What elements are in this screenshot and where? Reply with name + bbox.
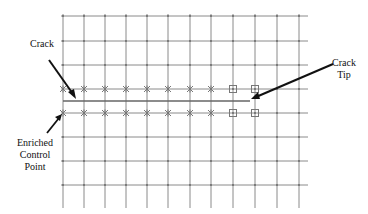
control-point: [62, 40, 64, 42]
control-point: [62, 184, 64, 186]
control-point: [276, 15, 278, 17]
control-point: [189, 136, 191, 138]
control-point: [83, 136, 85, 138]
control-point: [167, 15, 169, 17]
control-point: [276, 136, 278, 138]
control-point: [125, 64, 127, 66]
control-point: [232, 184, 234, 186]
control-point: [83, 160, 85, 162]
control-point: [146, 64, 148, 66]
control-point: [276, 64, 278, 66]
control-point: [146, 136, 148, 138]
crack-label-text: Crack: [30, 38, 54, 49]
control-point: [210, 15, 212, 17]
control-point: [298, 40, 300, 42]
control-point: [232, 112, 234, 114]
enriched-label-line1: Enriched: [6, 137, 64, 149]
control-point: [254, 160, 256, 162]
control-point: [298, 112, 300, 114]
crack-label: Crack: [22, 38, 62, 50]
control-point: [189, 15, 191, 17]
control-point: [83, 15, 85, 17]
control-point: [276, 160, 278, 162]
control-point: [254, 15, 256, 17]
control-point: [298, 184, 300, 186]
xfem-crack-grid-diagram: [0, 0, 368, 214]
enriched-label-line2: Control: [6, 149, 64, 161]
control-point: [232, 136, 234, 138]
control-point: [83, 64, 85, 66]
control-point: [104, 160, 106, 162]
control-point: [104, 40, 106, 42]
control-point: [167, 160, 169, 162]
control-point: [125, 15, 127, 17]
crack-tip-arrow: [251, 64, 333, 99]
control-point: [254, 136, 256, 138]
control-point: [254, 64, 256, 66]
control-point: [104, 64, 106, 66]
control-point: [167, 40, 169, 42]
control-point: [167, 64, 169, 66]
control-point: [104, 15, 106, 17]
control-point: [83, 184, 85, 186]
control-point: [210, 64, 212, 66]
control-point: [254, 40, 256, 42]
enriched-point-arrow: [47, 114, 62, 133]
control-point: [232, 64, 234, 66]
control-point: [146, 40, 148, 42]
control-point: [210, 136, 212, 138]
control-point: [62, 64, 64, 66]
control-point: [298, 136, 300, 138]
control-point: [232, 160, 234, 162]
control-point: [62, 15, 64, 17]
control-point: [146, 15, 148, 17]
control-point: [254, 184, 256, 186]
control-point: [189, 160, 191, 162]
control-point: [276, 184, 278, 186]
control-point: [210, 40, 212, 42]
control-point: [125, 40, 127, 42]
crack-tip-label: Crack Tip: [326, 57, 362, 81]
control-point: [125, 184, 127, 186]
control-point: [298, 160, 300, 162]
crack-tip-label-line2: Tip: [326, 69, 362, 81]
control-point: [125, 160, 127, 162]
control-point: [232, 40, 234, 42]
control-point: [189, 64, 191, 66]
control-point: [254, 88, 256, 90]
control-point: [232, 88, 234, 90]
control-point: [276, 112, 278, 114]
control-point: [254, 112, 256, 114]
control-point: [298, 88, 300, 90]
control-point: [83, 40, 85, 42]
control-point: [210, 184, 212, 186]
crack-tip-label-line1: Crack: [326, 57, 362, 69]
control-point: [104, 184, 106, 186]
control-point: [298, 64, 300, 66]
control-point: [146, 184, 148, 186]
control-point: [298, 15, 300, 17]
control-point: [276, 40, 278, 42]
control-point: [104, 136, 106, 138]
control-point: [146, 160, 148, 162]
control-point: [167, 184, 169, 186]
control-point: [232, 15, 234, 17]
control-point: [210, 160, 212, 162]
enriched-label-line3: Point: [6, 161, 64, 173]
control-point: [167, 136, 169, 138]
control-grid: [61, 14, 308, 208]
enriched-control-point-label: Enriched Control Point: [6, 137, 64, 173]
control-point: [189, 184, 191, 186]
control-point: [125, 136, 127, 138]
control-point: [189, 40, 191, 42]
